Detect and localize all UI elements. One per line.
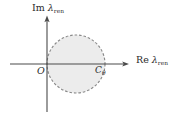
real-axis-operator: Re: [136, 54, 149, 65]
contour-subscript: θ: [102, 69, 106, 76]
real-axis-subscript: ren: [158, 60, 168, 66]
imaginary-axis-subscript: ren: [54, 8, 64, 14]
real-axis-label: Re λren: [136, 55, 168, 67]
imaginary-axis-label: Im λren: [32, 3, 64, 15]
imaginary-axis-operator: Im: [32, 2, 45, 13]
origin-label: O: [37, 66, 45, 76]
contour-label: Cθ: [95, 66, 105, 76]
contour-symbol: C: [95, 65, 102, 75]
complex-plane-figure: Im λren Re λren O Cθ: [0, 0, 180, 122]
